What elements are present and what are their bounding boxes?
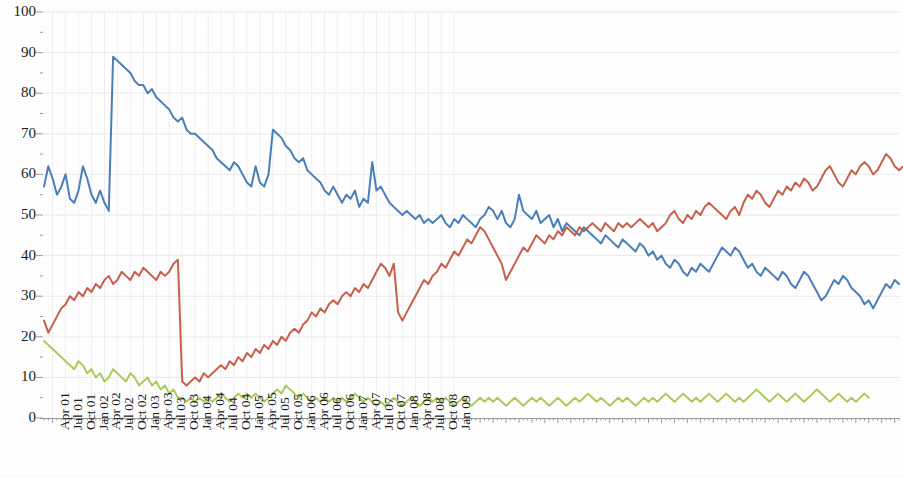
series-line-red-series (44, 154, 903, 385)
grid-lines (44, 12, 899, 418)
y-axis-tick-label: 70 (0, 126, 36, 141)
y-axis-tick-label: 30 (0, 288, 36, 303)
x-axis-tick-label: Oct 01 (84, 394, 98, 430)
series-line-blue-series (44, 57, 899, 309)
y-axis-tick-label: 90 (0, 45, 36, 60)
y-axis-tick-label: 60 (0, 166, 36, 181)
y-axis-tick-label: 10 (0, 369, 36, 384)
line-chart: 1009080706050403020100 Apr 01Jul 01Oct 0… (0, 0, 903, 477)
y-axis-tick-label: 80 (0, 85, 36, 100)
y-axis-tick-label: 20 (0, 329, 36, 344)
y-axis-tick-label: 100 (0, 4, 36, 19)
x-axis-tick-label: Apr 07 (369, 392, 383, 430)
y-axis-tick-label: 40 (0, 248, 36, 263)
y-axis (36, 12, 43, 418)
x-axis-tick-label: Jan 09 (459, 395, 473, 430)
y-axis-tick-label: 0 (0, 410, 36, 425)
y-axis-tick-label: 50 (0, 207, 36, 222)
